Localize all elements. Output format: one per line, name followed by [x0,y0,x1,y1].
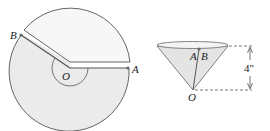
point-a [126,66,129,69]
label-o: O [62,70,70,82]
diagram-canvas: O A B A B O 4" [0,0,270,131]
label-b: B [10,29,17,41]
height-label: 4" [244,62,254,74]
label-cone-a: A [189,50,197,62]
disk-with-wedge: O A B [9,8,139,131]
point-b [19,33,22,36]
cone: A B O 4" [157,42,254,104]
label-cone-b: B [201,50,208,62]
label-a: A [131,63,139,75]
cone-rim [157,42,228,49]
label-cone-o: O [188,91,196,103]
